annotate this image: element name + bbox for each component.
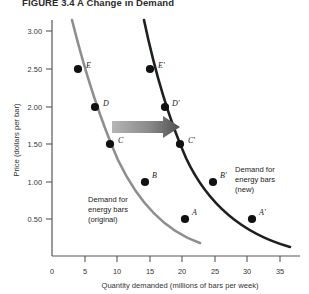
figure-container: FIGURE 3.4 A Change in Demand 3.00 2.50 — [0, 0, 309, 294]
data-point-E-prime — [146, 65, 154, 73]
y-axis-ticks: 3.00 2.50 2.00 1.50 1.00 0.50 — [28, 27, 52, 224]
x-tick-label: 25 — [211, 267, 219, 276]
y-tick-label: 2.00 — [28, 103, 42, 112]
curve-label-original-line-1: Demand for — [88, 195, 128, 204]
curve-label-new-line-2: energy bars — [235, 175, 275, 184]
y-axis-title: Price (dollars per bar) — [12, 103, 21, 176]
x-tick-label: 30 — [243, 267, 251, 276]
data-point-B — [141, 178, 149, 186]
point-label-B: B — [152, 171, 157, 180]
y-tick-label: 0.50 — [28, 215, 42, 224]
points-new: E' D' C' B' A' — [146, 61, 266, 223]
x-axis-ticks: 0 5 10 15 20 25 30 35 — [50, 256, 284, 276]
x-tick-label: 5 — [83, 267, 87, 276]
data-point-A — [181, 215, 189, 223]
point-label-D-prime: D' — [171, 99, 180, 108]
curve-label-original-line-2: energy bars — [88, 205, 128, 214]
curve-label-new-line-1: Demand for — [235, 165, 275, 174]
y-tick-label: 2.50 — [28, 65, 42, 74]
data-point-A-prime — [248, 215, 256, 223]
point-label-D: D — [102, 99, 109, 108]
data-point-D — [91, 103, 99, 111]
y-tick-label: 1.50 — [28, 140, 42, 149]
x-tick-label: 20 — [178, 267, 186, 276]
point-label-A: A — [191, 208, 197, 217]
x-tick-label: 10 — [113, 267, 121, 276]
x-tick-label: 0 — [50, 267, 54, 276]
y-tick-label: 3.00 — [28, 27, 42, 36]
curve-label-new-line-3: (new) — [235, 185, 254, 194]
data-point-E — [74, 65, 82, 73]
y-tick-label: 1.00 — [28, 178, 42, 187]
data-point-D-prime — [161, 103, 169, 111]
data-point-C — [106, 140, 114, 148]
curve-label-original-line-3: (original) — [88, 215, 118, 224]
x-tick-label: 15 — [146, 267, 154, 276]
point-label-A-prime: A' — [258, 208, 266, 217]
curve-label-new: Demand for energy bars (new) — [235, 165, 275, 194]
point-label-E: E — [85, 61, 91, 70]
point-label-E-prime: E' — [157, 61, 165, 70]
point-label-C-prime: C' — [188, 136, 195, 145]
demand-shift-chart: 3.00 2.50 2.00 1.50 1.00 0.50 0 5 10 15 … — [0, 0, 309, 294]
data-point-B-prime — [209, 178, 217, 186]
point-label-B-prime: B' — [220, 171, 227, 180]
point-label-C: C — [118, 136, 124, 145]
data-point-C-prime — [176, 140, 184, 148]
x-tick-label: 35 — [276, 267, 284, 276]
x-axis-title: Quantity demanded (millions of bars per … — [101, 281, 258, 290]
curve-label-original: Demand for energy bars (original) — [88, 195, 128, 224]
